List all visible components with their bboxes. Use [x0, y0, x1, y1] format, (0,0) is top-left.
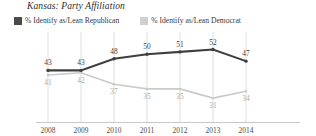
- data-point: [113, 83, 115, 85]
- value-label-republican: 50: [143, 43, 150, 51]
- data-point: [79, 69, 82, 72]
- chart-card: Kansas: Party Affiliation % Identify as/…: [0, 0, 316, 136]
- data-point: [179, 88, 181, 90]
- value-label-republican: 52: [209, 39, 216, 47]
- value-label-republican: 51: [176, 41, 183, 49]
- data-point: [145, 52, 148, 55]
- data-point: [245, 90, 247, 92]
- data-point: [212, 97, 214, 99]
- value-label-democrat: 31: [209, 102, 216, 110]
- data-point: [112, 57, 115, 60]
- value-label-democrat: 35: [143, 93, 150, 101]
- x-axis-label: 2012: [173, 127, 188, 135]
- data-point: [47, 74, 49, 76]
- x-axis-label: 2014: [239, 127, 254, 135]
- x-axis-label: 2013: [206, 127, 221, 135]
- value-label-democrat: 34: [242, 95, 249, 103]
- x-axis-label: 2009: [74, 127, 89, 135]
- data-point: [146, 88, 148, 90]
- value-label-republican: 48: [110, 48, 117, 56]
- value-label-democrat: 37: [110, 88, 117, 96]
- x-axis-label: 2010: [107, 127, 122, 135]
- value-label-republican: 43: [77, 59, 84, 67]
- x-axis-label: 2011: [140, 127, 155, 135]
- x-axis-label: 2008: [41, 127, 56, 135]
- chart-plot-area: [0, 0, 316, 136]
- value-label-democrat: 42: [77, 77, 84, 85]
- value-label-republican: 47: [242, 50, 249, 58]
- data-point: [46, 69, 49, 72]
- value-label-republican: 43: [44, 59, 51, 67]
- value-label-democrat: 41: [44, 79, 51, 87]
- data-point: [211, 48, 214, 51]
- data-point: [178, 50, 181, 53]
- data-point: [244, 59, 247, 62]
- value-label-democrat: 35: [176, 93, 183, 101]
